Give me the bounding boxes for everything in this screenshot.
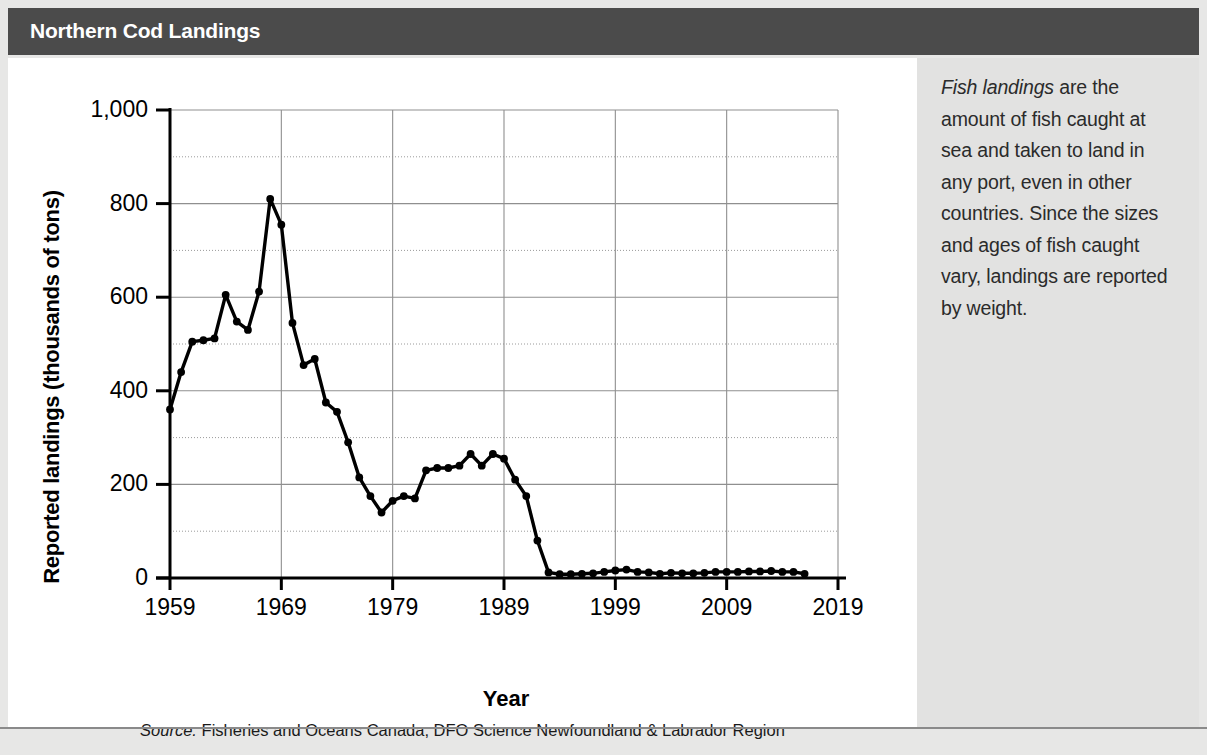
data-point-marker [400, 492, 408, 500]
data-point-marker [500, 455, 508, 463]
x-tick-label: 1989 [449, 594, 559, 621]
data-point-marker [600, 568, 608, 576]
data-point-marker [467, 450, 475, 458]
x-tick-label: 1969 [226, 594, 336, 621]
source-caption: Source: Fisheries and Oceans Canada, DFO… [8, 721, 917, 740]
data-point-marker [378, 509, 386, 517]
data-point-marker [634, 568, 642, 576]
data-point-marker [723, 568, 731, 576]
x-tick-label: 1999 [560, 594, 670, 621]
data-point-marker [433, 464, 441, 472]
data-point-marker [478, 462, 486, 470]
data-series-line [170, 199, 805, 574]
x-tick-label: 1979 [338, 594, 448, 621]
data-point-marker [545, 568, 553, 576]
data-point-marker [623, 566, 631, 574]
y-tick-label: 1,000 [48, 96, 148, 123]
data-point-marker [289, 319, 297, 327]
data-point-marker [645, 568, 653, 576]
data-point-marker [556, 570, 564, 578]
data-point-marker [211, 334, 219, 342]
page-title: Northern Cod Landings [30, 19, 260, 43]
data-point-marker [255, 288, 263, 296]
x-tick-label: 2019 [783, 594, 893, 621]
data-point-marker [422, 466, 430, 474]
data-point-marker [678, 569, 686, 577]
data-point-marker [344, 438, 352, 446]
data-point-marker [300, 361, 308, 369]
chart-panel: Reported landings (thousands of tons) Ye… [8, 58, 917, 727]
data-point-marker [444, 464, 452, 472]
y-tick-label: 200 [48, 470, 148, 497]
sidebar-definition-text: Fish landings are the amount of fish cau… [941, 72, 1173, 324]
source-text: Fisheries and Oceans Canada, DFO Science… [197, 721, 785, 739]
data-point-marker [589, 569, 597, 577]
data-point-marker [578, 570, 586, 578]
data-point-marker [790, 568, 798, 576]
data-point-marker [367, 492, 375, 500]
data-point-marker [233, 318, 241, 326]
data-point-marker [389, 497, 397, 505]
data-point-marker [767, 567, 775, 575]
data-point-marker [778, 568, 786, 576]
sidebar-body-text: are the amount of fish caught at sea and… [941, 76, 1167, 319]
plot-area: Reported landings (thousands of tons) Ye… [8, 58, 917, 727]
x-tick-label: 2009 [672, 594, 782, 621]
data-point-marker [266, 195, 274, 203]
data-point-marker [322, 399, 330, 407]
data-point-marker [244, 326, 252, 334]
bottom-divider [0, 727, 1207, 729]
data-point-marker [534, 537, 542, 545]
data-point-marker [567, 570, 575, 578]
data-point-marker [712, 568, 720, 576]
y-tick-label: 400 [48, 377, 148, 404]
data-point-marker [745, 568, 753, 576]
data-point-marker [222, 291, 230, 299]
data-point-marker [522, 492, 530, 500]
data-point-marker [511, 476, 519, 484]
data-point-marker [456, 462, 464, 470]
data-point-marker [667, 569, 675, 577]
data-point-marker [200, 336, 208, 344]
sidebar-panel: Fish landings are the amount of fish cau… [917, 58, 1199, 727]
data-point-marker [656, 570, 664, 578]
data-point-marker [333, 408, 341, 416]
data-point-marker [355, 473, 363, 481]
header-bar: Northern Cod Landings [8, 8, 1199, 55]
y-tick-label: 0 [48, 564, 148, 591]
y-tick-label: 600 [48, 283, 148, 310]
data-point-marker [166, 406, 174, 414]
data-point-marker [489, 450, 497, 458]
data-point-marker [801, 570, 809, 578]
sidebar-lead-term: Fish landings [941, 76, 1054, 98]
source-label: Source: [140, 721, 197, 739]
x-tick-label: 1959 [115, 594, 225, 621]
data-point-marker [701, 569, 709, 577]
data-point-marker [311, 355, 319, 363]
data-point-marker [177, 368, 185, 376]
data-point-marker [277, 221, 285, 229]
data-point-marker [689, 569, 697, 577]
page-root: Northern Cod Landings Reported landings … [0, 0, 1207, 755]
data-point-marker [756, 568, 764, 576]
data-point-marker [611, 567, 619, 575]
data-point-marker [188, 338, 196, 346]
data-point-marker [411, 495, 419, 503]
data-point-marker [734, 568, 742, 576]
y-tick-label: 800 [48, 190, 148, 217]
